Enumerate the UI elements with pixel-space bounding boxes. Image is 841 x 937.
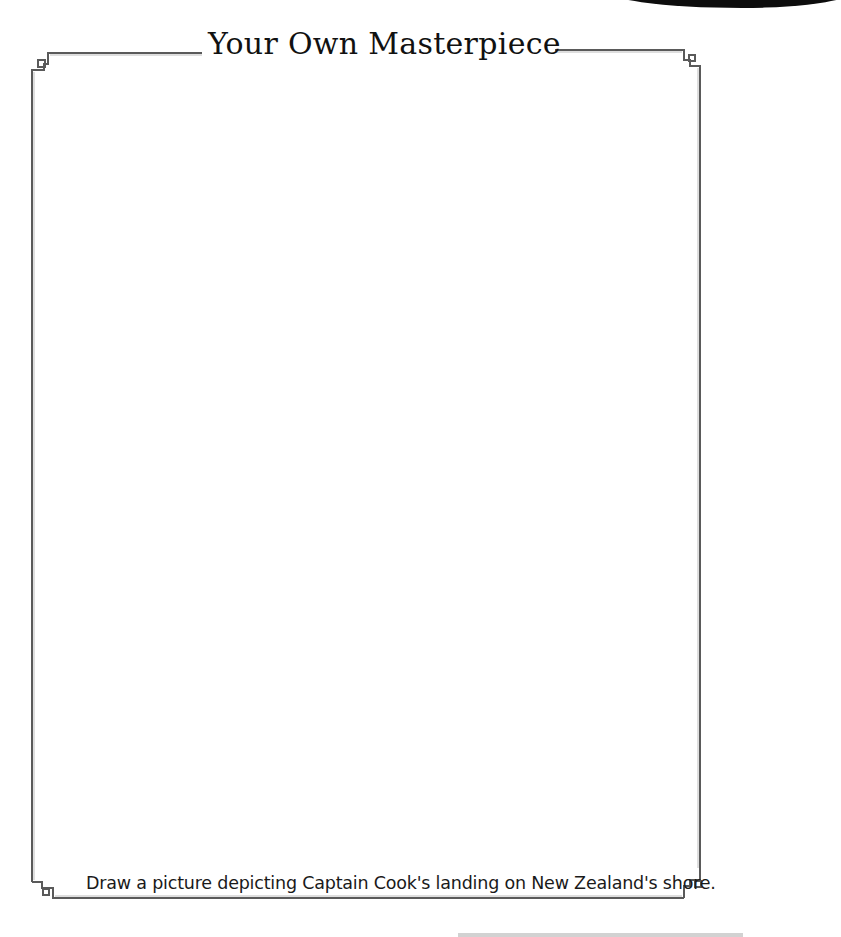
instruction-caption: Draw a picture depicting Captain Cook's …	[86, 873, 716, 893]
bottom-left-corner-ornament-icon	[43, 889, 49, 895]
page-title: Your Own Masterpiece	[208, 26, 548, 61]
top-right-corner-ornament-icon	[689, 55, 695, 61]
scan-edge-bar	[458, 933, 743, 937]
drawing-area[interactable]	[40, 72, 695, 867]
